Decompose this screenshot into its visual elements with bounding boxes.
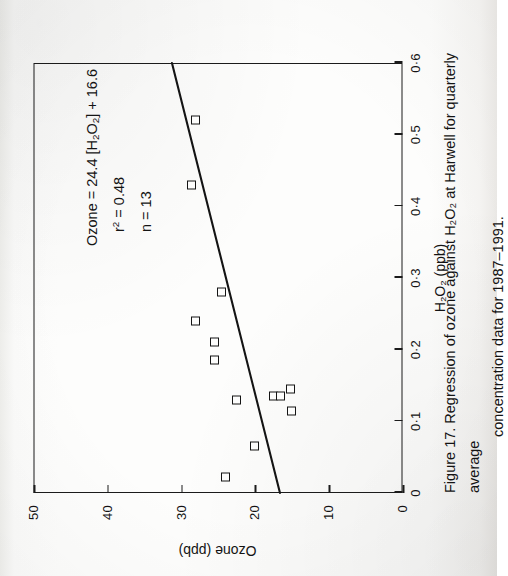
x-tick-label: 0 [407, 489, 422, 496]
x-tick-label: 0·4 [407, 197, 422, 216]
x-tick-label: 0·2 [407, 340, 422, 359]
x-tick [394, 420, 402, 422]
sample-size-value: = 13 [137, 191, 153, 224]
y-tick [254, 485, 256, 493]
y-tick-label: 30 [173, 505, 188, 520]
data-point-marker [191, 116, 200, 125]
x-tick [394, 62, 402, 64]
data-point-marker [191, 317, 200, 326]
y-tick [181, 485, 183, 493]
x-tick-label: 0·6 [407, 53, 422, 72]
data-point-marker [209, 356, 218, 365]
y-tick [328, 485, 330, 493]
y-tick-label: 40 [99, 505, 114, 520]
x-tick [394, 348, 402, 350]
caption-line-1: Regression of ozone against H₂O₂ at Harw… [441, 53, 481, 493]
data-point-marker [209, 338, 218, 347]
y-tick [402, 485, 404, 493]
sample-size-label: n [137, 224, 153, 232]
y-tick-label: 0 [395, 505, 410, 512]
figure-caption: Figure 17. Regression of ozone against H… [438, 23, 508, 493]
r-squared-exponent: 2 [109, 222, 120, 227]
y-tick [107, 485, 109, 493]
equation-text: Ozone = 24.4 [H2O2] + 16.6 [78, 69, 105, 246]
sample-size-text: n = 13 [132, 69, 159, 246]
data-point-marker [220, 473, 229, 482]
x-tick-label: 0·3 [407, 268, 422, 287]
data-point-marker [217, 288, 226, 297]
y-tick [33, 485, 35, 493]
y-axis-title: Ozone (ppb) [178, 543, 256, 559]
r-squared-value: = 0.48 [110, 177, 126, 222]
data-point-marker [276, 392, 285, 401]
equation-sub-1: 2 [89, 135, 100, 140]
x-tick-label: 0·5 [407, 125, 422, 144]
data-point-marker [186, 180, 195, 189]
caption-figure-number: Figure 17. [441, 428, 457, 493]
regression-annotation: Ozone = 24.4 [H2O2] + 16.6 r2 = 0.48 n =… [78, 69, 158, 246]
caption-first-line: Figure 17. Regression of ozone against H… [438, 23, 486, 493]
x-tick [394, 133, 402, 135]
y-tick-label: 10 [321, 505, 336, 520]
r-squared-text: r2 = 0.48 [105, 69, 132, 246]
data-point-marker [287, 406, 296, 415]
y-tick-label: 20 [247, 505, 262, 520]
equation-sub-2: 2 [89, 118, 100, 123]
x-tick [394, 205, 402, 207]
data-point-marker [285, 385, 294, 394]
equation-rhs: ] + 16.6 [83, 69, 99, 118]
data-point-marker [250, 442, 259, 451]
y-tick-label: 50 [26, 505, 41, 520]
data-point-marker [231, 395, 240, 404]
equation-mid: O [83, 123, 99, 134]
x-tick [394, 277, 402, 279]
equation-lhs: Ozone = 24.4 [H [83, 140, 99, 246]
r-squared-label: r [110, 227, 126, 232]
caption-line-2: concentration data for 1987–1991. [486, 23, 508, 493]
x-tick-label: 0·1 [407, 412, 422, 431]
x-tick [394, 492, 402, 494]
